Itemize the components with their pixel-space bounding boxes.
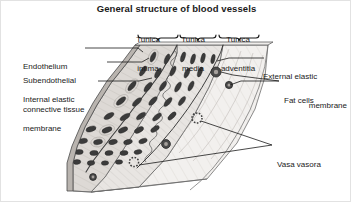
label-tunica-intima-line1: Tunica — [129, 35, 167, 45]
label-tunica-adventitia: Tunica adventitia — [213, 16, 263, 92]
label-internal-elastic-membrane: Internal elastic membrane — [23, 76, 75, 152]
label-fat-cells: Fat cells — [284, 77, 314, 125]
label-internal-elastic-line1: Internal elastic — [23, 95, 75, 105]
fat-cell — [162, 140, 171, 149]
label-tunica-intima: Tunica intima — [129, 16, 167, 92]
label-vasa-vasora-line1: Vasa vasora — [277, 160, 321, 170]
label-fat-cells-line1: Fat cells — [284, 96, 314, 106]
label-tunica-intima-line2: intima — [129, 64, 167, 74]
label-tunica-adventitia-line1: Tunica — [213, 35, 263, 45]
label-tunica-adventitia-line2: adventitia — [213, 64, 263, 74]
fat-cell — [90, 174, 97, 181]
label-tunica-media-line1: Tunica — [174, 35, 212, 45]
label-tunica-media-line2: media — [174, 64, 212, 74]
label-tunica-media: Tunica media — [174, 16, 212, 92]
label-vasa-vasora: Vasa vasora — [277, 141, 321, 189]
blood-vessel-structure-figure: General structure of blood vessels — [0, 0, 351, 202]
label-internal-elastic-line2: membrane — [23, 124, 75, 134]
